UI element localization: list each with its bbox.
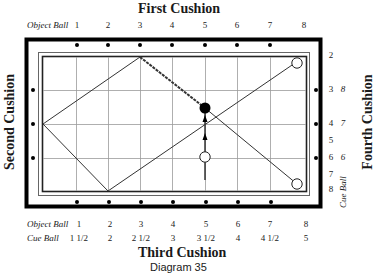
table-frame: [27, 40, 321, 207]
target-ball-top-right: [292, 58, 302, 68]
target-ball-bottom-right: [292, 179, 302, 189]
cue-ball: [200, 152, 210, 162]
object-ball: [200, 103, 211, 114]
billiard-table: [0, 0, 379, 276]
